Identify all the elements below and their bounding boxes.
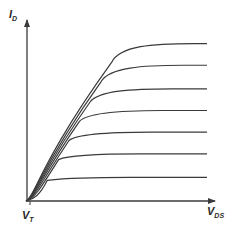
curve-5: [26, 89, 207, 201]
vt-tick-label: VT: [22, 210, 34, 223]
curves-group: [26, 44, 207, 201]
curve-1: [26, 177, 207, 201]
chart-canvas: [0, 0, 238, 230]
x-axis-label: VDS: [207, 206, 224, 219]
curve-3: [26, 132, 207, 201]
y-axis-label: ID: [9, 9, 17, 22]
